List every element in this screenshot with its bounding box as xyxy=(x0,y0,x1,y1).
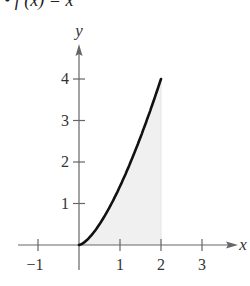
y-axis-label: y xyxy=(73,21,83,40)
x-tick-label: 1 xyxy=(116,256,124,273)
shaded-area xyxy=(79,79,161,245)
x-axis-label: x xyxy=(238,235,247,254)
y-tick-label: 3 xyxy=(61,112,69,129)
y-tick-label: 4 xyxy=(61,70,69,87)
y-tick-label: 1 xyxy=(61,195,69,212)
x-tick-label: −1 xyxy=(26,256,43,273)
x-tick-label: 3 xyxy=(198,256,206,273)
plot-area: −11231234xy xyxy=(0,0,250,286)
y-tick-label: 2 xyxy=(61,153,69,170)
x-tick-label: 2 xyxy=(157,256,165,273)
shaded-region xyxy=(79,79,161,245)
